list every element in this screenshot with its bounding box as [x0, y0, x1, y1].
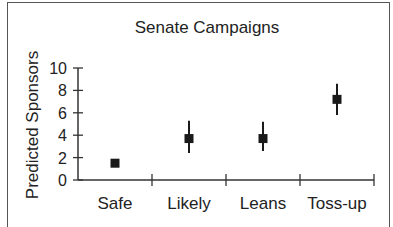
- axes: 0246810SafeLikelyLeansToss-up: [49, 60, 374, 213]
- chart-title: Senate Campaigns: [135, 18, 280, 37]
- y-tick-label: 8: [58, 82, 67, 99]
- data-point-marker: [333, 95, 342, 104]
- data-point-marker: [111, 159, 120, 168]
- x-category-label: Safe: [98, 194, 133, 213]
- y-tick-label: 10: [49, 60, 67, 77]
- y-tick-label: 4: [58, 127, 67, 144]
- x-category-label: Leans: [240, 194, 286, 213]
- y-tick-label: 2: [58, 150, 67, 167]
- data-point-marker: [185, 134, 194, 143]
- data-points: [111, 84, 342, 168]
- data-point-marker: [259, 134, 268, 143]
- chart-plot: Senate Campaigns Predicted Sponsors 0246…: [0, 0, 393, 227]
- x-category-label: Likely: [167, 194, 211, 213]
- y-tick-label: 0: [58, 172, 67, 189]
- y-tick-label: 6: [58, 105, 67, 122]
- y-axis-label: Predicted Sponsors: [23, 51, 42, 199]
- x-category-label: Toss-up: [307, 194, 367, 213]
